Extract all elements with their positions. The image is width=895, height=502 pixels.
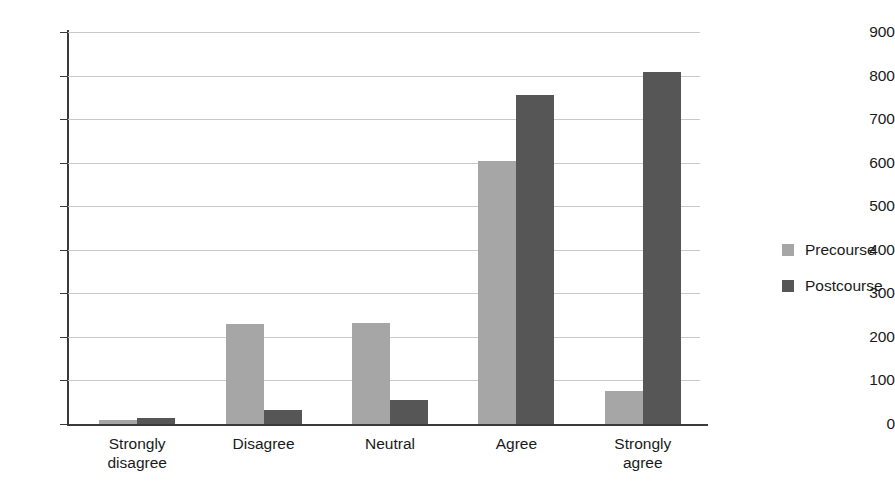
y-tick-mark-600 — [60, 163, 67, 164]
x-label-line: Agree — [451, 434, 581, 453]
x-label-line: Disagree — [199, 434, 329, 453]
bar-postcourse-neutral[interactable] — [390, 400, 428, 424]
x-label-line: Strongly — [72, 434, 202, 453]
legend-label-postcourse: Postcourse — [805, 278, 883, 294]
y-tick-mark-400 — [60, 250, 67, 251]
x-label-line: Neutral — [325, 434, 455, 453]
x-axis-baseline — [68, 424, 708, 426]
y-tick-label-900: 900 — [843, 24, 895, 40]
legend-item-postcourse[interactable]: Postcourse — [782, 279, 883, 293]
x-label-neutral: Neutral — [325, 434, 455, 453]
x-label-line: disagree — [72, 453, 202, 472]
y-tick-label-700: 700 — [843, 111, 895, 127]
bar-precourse-neutral[interactable] — [352, 323, 390, 424]
bar-precourse-strongly-disagree[interactable] — [99, 420, 137, 424]
x-label-line: agree — [578, 453, 708, 472]
gridline-900 — [68, 32, 700, 33]
y-tick-label-500: 500 — [843, 198, 895, 214]
y-tick-label-200: 200 — [843, 329, 895, 345]
x-label-strongly-disagree: Stronglydisagree — [72, 434, 202, 472]
legend-item-precourse[interactable]: Precourse — [782, 243, 883, 257]
bar-precourse-disagree[interactable] — [226, 324, 264, 424]
gridline-700 — [68, 119, 700, 120]
y-tick-mark-200 — [60, 337, 67, 338]
gridline-300 — [68, 293, 700, 294]
bar-postcourse-agree[interactable] — [516, 95, 554, 424]
y-tick-mark-100 — [60, 380, 67, 381]
legend-label-precourse: Precourse — [805, 242, 876, 258]
gridline-500 — [68, 206, 700, 207]
y-tick-label-800: 800 — [843, 68, 895, 84]
x-label-disagree: Disagree — [199, 434, 329, 453]
y-tick-mark-800 — [60, 76, 67, 77]
bar-postcourse-disagree[interactable] — [264, 410, 302, 424]
x-label-strongly-agree: Stronglyagree — [578, 434, 708, 472]
y-tick-mark-0 — [60, 424, 67, 425]
y-tick-label-100: 100 — [843, 372, 895, 388]
bar-precourse-agree[interactable] — [478, 161, 516, 425]
y-tick-mark-700 — [60, 119, 67, 120]
y-tick-mark-500 — [60, 206, 67, 207]
x-label-agree: Agree — [451, 434, 581, 453]
gridline-600 — [68, 163, 700, 164]
x-label-line: Strongly — [578, 434, 708, 453]
y-tick-label-600: 600 — [843, 155, 895, 171]
gridline-400 — [68, 250, 700, 251]
gridline-800 — [68, 76, 700, 77]
legend-swatch-postcourse-icon — [782, 280, 794, 292]
bar-precourse-strongly-agree[interactable] — [605, 391, 643, 424]
y-tick-label-0: 0 — [843, 416, 895, 432]
legend-swatch-precourse-icon — [782, 244, 794, 256]
bar-postcourse-strongly-disagree[interactable] — [137, 418, 175, 424]
chart-legend: PrecoursePostcourse — [782, 243, 883, 315]
y-tick-mark-900 — [60, 32, 67, 33]
bar-postcourse-strongly-agree[interactable] — [643, 72, 681, 424]
y-tick-mark-300 — [60, 293, 67, 294]
plot-area — [68, 32, 700, 424]
bar-chart-figure: 9008007006005004003002001000 Stronglydis… — [0, 0, 895, 502]
